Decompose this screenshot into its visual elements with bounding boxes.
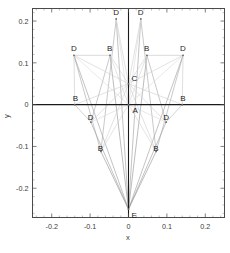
data-point	[109, 54, 111, 56]
y-axis-tick-label: -0.2	[16, 184, 28, 193]
data-point-label: D	[180, 44, 186, 53]
data-point-label: E	[132, 211, 137, 220]
x-axis-tick-label: -0.1	[84, 222, 96, 231]
data-point	[182, 54, 184, 56]
data-point	[128, 208, 130, 210]
y-axis-title: y	[2, 114, 11, 118]
x-axis-tick-label: 0.1	[162, 222, 172, 231]
data-point-label: D	[71, 44, 77, 53]
data-point	[128, 83, 130, 85]
data-point	[74, 104, 76, 106]
data-point-label: A	[133, 106, 139, 115]
data-point-label: B	[107, 44, 112, 53]
data-point-label: D	[113, 8, 119, 17]
y-axis-tick-label: -0.1	[16, 142, 28, 151]
scatter-plot-figure: ACEBBBBBBDDDDDD -0.2-0.100.10.2-0.2-0.10…	[0, 0, 230, 253]
data-point	[181, 104, 183, 106]
data-point	[73, 54, 75, 56]
y-axis-tick-label: 0.2	[19, 17, 29, 26]
x-axis-tick-label: 0	[127, 222, 131, 231]
data-point-label: B	[73, 94, 78, 103]
x-axis-tick-label: 0.2	[200, 222, 210, 231]
data-point	[140, 18, 142, 20]
data-point-label: B	[98, 144, 103, 153]
x-axis-title: x	[126, 233, 130, 242]
data-point	[146, 54, 148, 56]
data-point	[115, 18, 117, 20]
data-point-label: D	[163, 113, 169, 122]
data-point-label: C	[132, 74, 138, 83]
data-point-label: D	[138, 8, 144, 17]
data-point-label: D	[88, 113, 94, 122]
y-axis-tick-label: 0	[25, 100, 29, 109]
x-axis-tick-label: -0.2	[46, 222, 58, 231]
data-point-label: B	[144, 44, 149, 53]
data-point-label: B	[180, 94, 185, 103]
data-point-label: B	[153, 144, 158, 153]
y-axis-tick-label: 0.1	[19, 59, 29, 68]
data-point	[128, 104, 130, 106]
